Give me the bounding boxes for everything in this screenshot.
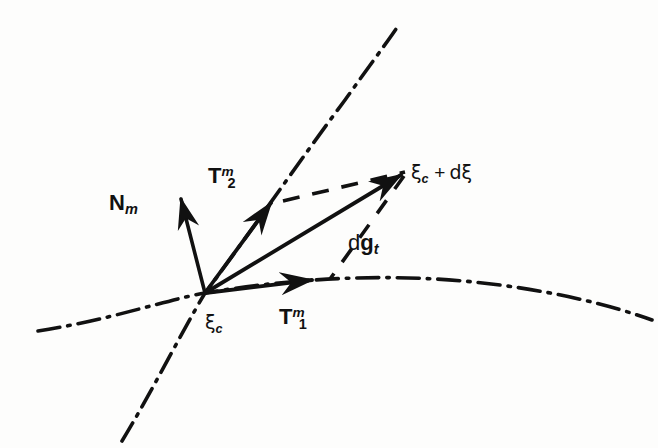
incremented-point-symbol: ξ [411, 161, 422, 183]
contact-point-symbol: ξ [205, 311, 216, 333]
incremented-contact-point-label: ξc+dξ [411, 163, 472, 185]
tangent-2-subscript: 2 [227, 175, 235, 191]
tangent-2-label: Tm2 [208, 165, 236, 190]
contact-point-subscript: c [216, 322, 223, 336]
tangent-2-symbol: T [208, 163, 221, 188]
incremented-point-delta: dξ [450, 161, 473, 183]
guide-diagonal-lower [330, 176, 404, 279]
increment-vector-symbol: g [360, 230, 373, 255]
tangent-1-subscript: 1 [299, 316, 307, 332]
normal-vector-label: Nm [109, 192, 138, 217]
guide-horizontal-upper [283, 172, 405, 201]
incremented-point-operator: + [434, 162, 445, 183]
normal-vector-arrow [181, 199, 205, 293]
increment-vector-label: dgt [348, 232, 379, 257]
tangent-1-label: Tm1 [279, 306, 307, 331]
tangent-1-symbol: T [279, 304, 292, 329]
normal-vector-subscript: m [125, 201, 138, 217]
increment-vector-subscript: t [374, 241, 379, 257]
coordinate-line-horizontal [38, 278, 652, 331]
increment-differential-prefix: d [348, 230, 360, 255]
incremented-point-subscript: c [422, 172, 429, 186]
contact-kinematics-figure: Nm Tm2 Tm1 dgt ξc ξc+dξ [0, 0, 658, 448]
normal-vector-symbol: N [109, 190, 125, 215]
diagram-canvas [0, 0, 658, 448]
tangent-2-arrow [205, 203, 271, 293]
contact-point-label: ξc [205, 313, 223, 335]
